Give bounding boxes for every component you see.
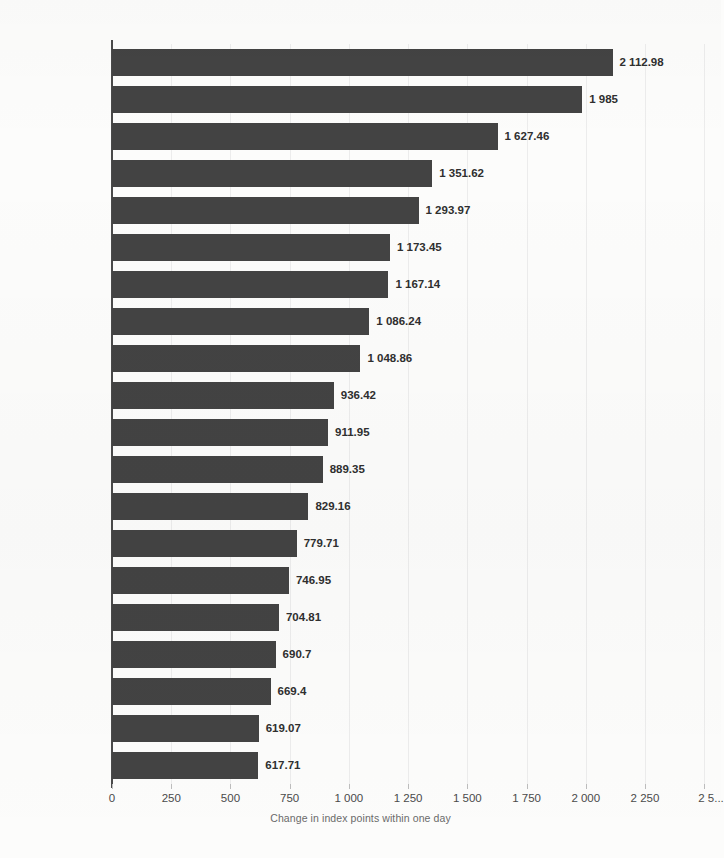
bar-value-label: 2 112.98 [613, 49, 664, 76]
bar [112, 456, 323, 483]
bar [112, 715, 259, 742]
bar-value-label: 690.7 [276, 641, 312, 668]
x-tick-label: 0 [109, 792, 115, 804]
bar-row: 01.04.2019746.95 [112, 562, 645, 599]
bar [112, 271, 388, 298]
bar-row: 03.02.20201 293.97 [112, 192, 645, 229]
bar-row: 03.26.2018669.4 [112, 673, 645, 710]
bar-row: 06.05.2020829.16 [112, 488, 645, 525]
gridline [704, 44, 705, 784]
x-tick-mark [586, 784, 587, 789]
bar-value-label: 1 985 [582, 86, 618, 113]
bar [112, 197, 419, 224]
bar-value-label: 779.71 [297, 530, 339, 557]
bar-row: 04.17.2020704.81 [112, 599, 645, 636]
bar [112, 308, 369, 335]
x-tick-label: 2 250 [631, 792, 660, 804]
bar-row: 03.26.20201 351.62 [112, 155, 645, 192]
bar-value-label: 829.16 [308, 493, 350, 520]
bar-row: 04.06.20201 627.46 [112, 118, 645, 155]
plot-area: 03.24.20202 112.9803.13.20201 98504.06.2… [112, 44, 645, 784]
x-tick-mark [290, 784, 291, 789]
x-tick-label: 2 000 [571, 792, 600, 804]
bar [112, 419, 328, 446]
bar [112, 382, 334, 409]
bar [112, 234, 390, 261]
bar-value-label: 704.81 [279, 604, 321, 631]
x-axis-title: Change in index points within one day [0, 812, 721, 824]
bar [112, 641, 276, 668]
bar-value-label: 911.95 [328, 419, 370, 446]
bar-row: 03.10.20201 167.14 [112, 266, 645, 303]
x-tick-mark [704, 784, 705, 789]
bar-row: 04.08.2020779.71 [112, 525, 645, 562]
bar-row: 11.28.2018617.71 [112, 747, 645, 784]
x-tick-mark [527, 784, 528, 789]
x-tick-label: 500 [221, 792, 240, 804]
bar-row: 10.13.2008936.42 [112, 377, 645, 414]
bar [112, 86, 582, 113]
bar [112, 530, 297, 557]
bar-value-label: 669.4 [271, 678, 307, 705]
bar-value-label: 619.07 [259, 715, 301, 742]
bar-row: 10.28.2008889.35 [112, 451, 645, 488]
bar [112, 678, 271, 705]
bar [112, 123, 498, 150]
bar-value-label: 889.35 [323, 456, 365, 483]
x-tick-mark [112, 784, 113, 789]
x-tick-label: 1 500 [453, 792, 482, 804]
bar-row: 12.26.20181 086.24 [112, 303, 645, 340]
bar-row: 03.17.20201 048.86 [112, 340, 645, 377]
x-tick-label: 1 000 [334, 792, 363, 804]
x-tick-label: 750 [280, 792, 299, 804]
x-tick-label: 2 5... [698, 792, 724, 804]
bar-value-label: 746.95 [289, 567, 331, 594]
bar-row: 08.26.2015619.07 [112, 710, 645, 747]
bar [112, 160, 432, 187]
x-tick-mark [171, 784, 172, 789]
x-axis: 02505007501 0001 2501 5001 7502 0002 250… [112, 784, 645, 808]
bar-rows: 03.24.20202 112.9803.13.20201 98504.06.2… [112, 44, 645, 784]
bar-value-label: 936.42 [334, 382, 376, 409]
x-tick-label: 1 750 [512, 792, 541, 804]
bar-value-label: 1 167.14 [388, 271, 440, 298]
bar-row: 03.30.2020690.7 [112, 636, 645, 673]
x-tick-mark [349, 784, 350, 789]
bar [112, 604, 279, 631]
bar-value-label: 1 351.62 [432, 160, 484, 187]
bar [112, 752, 258, 779]
bar-row: 03.13.20201 985 [112, 81, 645, 118]
bar-value-label: 1 293.97 [419, 197, 471, 224]
bar-value-label: 1 173.45 [390, 234, 442, 261]
bar-row: 03.24.20202 112.98 [112, 44, 645, 81]
bar-value-label: 617.71 [258, 752, 300, 779]
bar [112, 493, 308, 520]
x-tick-mark [645, 784, 646, 789]
x-tick-mark [408, 784, 409, 789]
bar-row: 03.04.20201 173.45 [112, 229, 645, 266]
bar-value-label: 1 086.24 [369, 308, 421, 335]
bar-value-label: 1 048.86 [360, 345, 412, 372]
x-tick-mark [230, 784, 231, 789]
bar [112, 567, 289, 594]
bar [112, 345, 360, 372]
bar-value-label: 1 627.46 [498, 123, 550, 150]
x-tick-mark [467, 784, 468, 789]
x-tick-label: 250 [162, 792, 181, 804]
x-tick-label: 1 250 [394, 792, 423, 804]
bar [112, 49, 613, 76]
gridline [645, 44, 646, 784]
bar-row: 05.18.2020911.95 [112, 414, 645, 451]
